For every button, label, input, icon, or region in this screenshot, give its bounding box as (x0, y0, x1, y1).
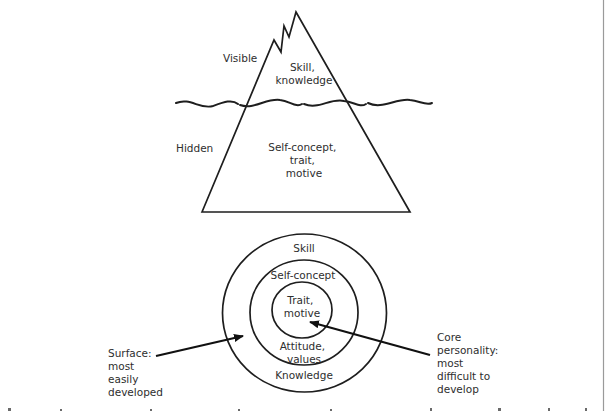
surface-annotation: Surface: most easily developed (108, 336, 243, 398)
core-label: Core personality: most difficult to deve… (437, 331, 502, 395)
above-water-line-2: knowledge (276, 74, 333, 86)
outer-top-label: Skill (293, 242, 315, 254)
label-hidden: Hidden (176, 142, 213, 154)
competency-model-diagram: Visible Hidden Skill, knowledge Self-con… (0, 0, 609, 411)
below-water-line-1: Self-concept, (268, 141, 336, 153)
below-water-text: Self-concept, trait, motive (268, 141, 340, 179)
middle-top-label: Self-concept (271, 269, 336, 281)
middle-bottom-label: Attitude, values (280, 340, 329, 365)
inner-label: Trait, motive (284, 294, 320, 319)
surface-line-3: easily (108, 373, 138, 385)
waterline (176, 100, 432, 107)
below-water-line-3: motive (286, 167, 322, 179)
core-line-5: develop (437, 383, 479, 395)
waterline-wave-1 (176, 101, 238, 106)
below-water-line-2: trait, (290, 154, 315, 166)
surface-label: Surface: most easily developed (108, 347, 163, 398)
middle-bottom-line-1: Attitude, (280, 340, 325, 352)
label-visible: Visible (223, 52, 257, 64)
middle-bottom-line-2: values (287, 353, 321, 365)
iceberg-model: Visible Hidden Skill, knowledge Self-con… (176, 12, 432, 212)
iceberg-outline (202, 12, 410, 212)
surface-line-4: developed (108, 386, 163, 398)
concentric-circles-model: Skill Self-concept Trait, motive Attitud… (223, 234, 387, 392)
core-line-1: Core (437, 331, 461, 343)
waterline-wave-3 (304, 101, 366, 106)
outer-bottom-label: Knowledge (275, 369, 333, 381)
core-line-4: difficult to (437, 370, 490, 382)
inner-line-1: Trait, (286, 294, 313, 306)
waterline-wave-4 (368, 100, 432, 105)
surface-line-2: most (108, 360, 134, 372)
inner-line-2: motive (284, 307, 320, 319)
surface-line-1: Surface: (108, 347, 152, 359)
above-water-line-1: Skill, (290, 61, 315, 73)
above-water-text: Skill, knowledge (276, 61, 333, 86)
core-line-2: personality: (437, 344, 498, 356)
core-line-3: most (437, 357, 463, 369)
